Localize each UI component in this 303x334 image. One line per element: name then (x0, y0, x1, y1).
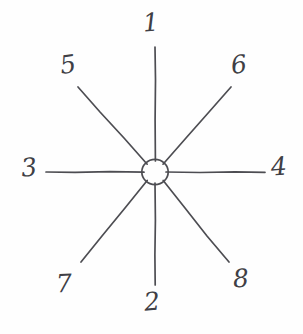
spoke-lines-canvas (0, 0, 303, 334)
spoke-label-4: 4 (270, 153, 288, 179)
spoke-line-4 (166, 172, 265, 173)
spoke-label-2: 2 (143, 288, 161, 314)
spoke-line-6 (163, 87, 231, 164)
spoke-label-7: 7 (55, 271, 72, 297)
spoke-line-8 (163, 181, 229, 263)
spoke-line-1 (155, 47, 156, 161)
spoke-label-5: 5 (58, 51, 77, 78)
spoke-label-3: 3 (20, 154, 38, 181)
spoke-diagram: 1 2 3 4 5 6 7 8 (0, 0, 303, 334)
spoke-line-2 (155, 183, 156, 285)
spoke-line-5 (78, 87, 147, 164)
spoke-label-8: 8 (232, 265, 250, 291)
spoke-line-7 (81, 181, 147, 263)
center-hub-circle (142, 159, 168, 184)
spoke-label-6: 6 (230, 51, 249, 78)
spoke-line-3 (46, 172, 144, 173)
spoke-label-1: 1 (142, 9, 160, 35)
